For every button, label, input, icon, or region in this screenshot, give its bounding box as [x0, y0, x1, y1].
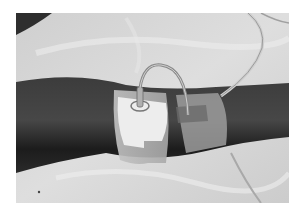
catheter-connector — [137, 87, 143, 107]
photograph — [16, 13, 289, 203]
tape-strip — [176, 105, 208, 123]
arm-iv-scene — [16, 13, 289, 203]
